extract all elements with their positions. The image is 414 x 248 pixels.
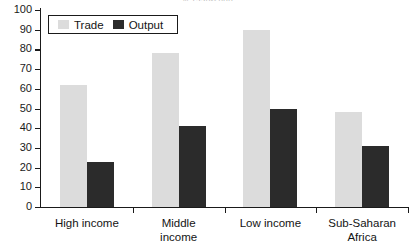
x-axis-category-label: High income [41,216,133,230]
bar-chart-figure: % 1990-2000 1009080706050403020100 High … [0,0,414,248]
y-axis-tick-label: 50 [2,103,32,114]
x-axis-tick-mark [225,207,226,213]
y-axis-tick-label: 0 [2,201,32,212]
y-axis-tick-mark [35,187,40,188]
y-axis-tick-label: 80 [2,43,32,54]
y-axis-tick-label: 40 [2,122,32,133]
y-axis-tick-mark [35,89,40,90]
legend-label: Trade [74,19,104,31]
y-axis-tick-mark [35,168,40,169]
legend-item-trade: Trade [58,19,104,31]
bar-output-1 [179,126,206,207]
y-axis-tick-mark [35,10,40,11]
x-axis-category-label: Middle income [133,216,225,244]
bar-output-3 [362,146,389,207]
chart-legend: TradeOutput [48,15,178,34]
x-axis-tick-mark [316,207,317,213]
x-axis-category-label: Low income [225,216,317,230]
y-axis-tick-label: 100 [2,4,32,15]
y-axis-tick-mark [35,128,40,129]
legend-label: Output [129,19,164,31]
y-axis-tick-mark [35,49,40,50]
y-axis-tick-mark [35,109,40,110]
bar-trade-1 [152,53,179,207]
y-axis-tick-mark [35,69,40,70]
bar-trade-3 [335,112,362,207]
y-axis-tick-mark [35,148,40,149]
y-axis-tick-mark [35,207,40,208]
legend-swatch-trade-icon [58,20,69,29]
plot-area [41,10,408,207]
y-axis-tick-label: 90 [2,24,32,35]
bar-trade-0 [60,85,87,207]
bar-trade-2 [243,30,270,207]
legend-item-output: Output [113,19,164,31]
y-axis-tick-label: 70 [2,63,32,74]
y-axis-tick-label: 10 [2,181,32,192]
bar-output-0 [87,162,114,207]
x-axis-category-label: Sub-Saharan Africa [316,216,408,244]
x-axis-tick-mark-end [408,207,409,213]
y-axis-tick-label: 30 [2,142,32,153]
y-axis-tick-label: 20 [2,162,32,173]
chart-title: % 1990-2000 [0,0,414,1]
legend-swatch-output-icon [113,20,124,29]
x-axis-tick-mark [133,207,134,213]
bar-output-2 [270,109,297,208]
y-axis-tick-label: 60 [2,83,32,94]
y-axis-tick-mark [35,30,40,31]
